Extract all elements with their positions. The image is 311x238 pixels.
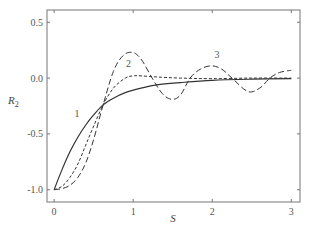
- y-tick-label: 0.5: [31, 17, 44, 28]
- x-tick-label: 2: [210, 206, 215, 217]
- y-axis-label: R2: [7, 94, 19, 109]
- curves: [54, 52, 291, 189]
- curve-3: [54, 52, 291, 189]
- x-tick-label: 3: [289, 206, 294, 217]
- curve-labels: 123: [75, 49, 220, 119]
- curve-label-3: 3: [214, 49, 219, 60]
- chart: 0123 0.50.0-0.5-1.0 123 S R2: [0, 0, 311, 238]
- y-axis-label-subscript: 2: [15, 100, 19, 109]
- x-tick-label: 1: [131, 206, 136, 217]
- y-tick-label: -0.5: [27, 128, 43, 139]
- y-tick-label: -1.0: [27, 184, 43, 195]
- y-tick-label: 0.0: [31, 73, 44, 84]
- y-axis-ticks: 0.50.0-0.5-1.0: [27, 17, 300, 195]
- curve-label-2: 2: [126, 58, 131, 69]
- curve-label-1: 1: [75, 108, 80, 119]
- x-axis-label: S: [170, 212, 176, 224]
- curve-1: [54, 79, 291, 190]
- curve-2: [54, 76, 291, 190]
- x-tick-label: 0: [52, 206, 57, 217]
- x-axis-ticks: 0123: [52, 10, 294, 217]
- plot-frame: [47, 10, 300, 202]
